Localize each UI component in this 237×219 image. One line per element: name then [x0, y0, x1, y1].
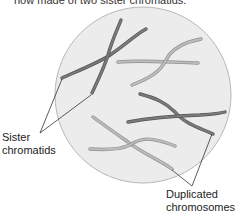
label-line: Duplicated — [166, 188, 235, 201]
label-line: Sister — [2, 131, 56, 144]
cell-diagram — [0, 0, 237, 219]
label-line: chromosomes — [166, 201, 235, 214]
label-duplicated-chromosomes: Duplicated chromosomes — [166, 188, 235, 214]
label-sister-chromatids: Sister chromatids — [2, 131, 56, 157]
label-line: chromatids — [2, 144, 56, 157]
